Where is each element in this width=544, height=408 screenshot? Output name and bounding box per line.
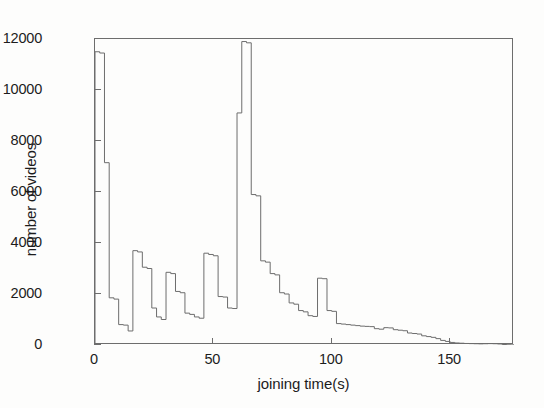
x-axis-ticks: 050100150 (0, 0, 544, 408)
y-tick-mark (94, 344, 101, 345)
x-tick-label: 150 (437, 351, 461, 367)
y-axis-title: number of videos (22, 110, 39, 290)
x-tick-label: 100 (319, 351, 343, 367)
x-tick-label: 0 (90, 351, 98, 367)
y-tick-mark (94, 242, 101, 243)
x-tick-mark (212, 338, 213, 344)
y-tick-mark (94, 38, 101, 39)
x-tick-mark (449, 338, 450, 344)
y-tick-mark (94, 140, 101, 141)
chart-figure: 020004000600080001000012000 050100150 jo… (0, 0, 544, 408)
x-tick-mark (331, 338, 332, 344)
y-tick-mark (94, 191, 101, 192)
x-axis-title: joining time(s) (94, 375, 513, 392)
x-tick-label: 50 (204, 351, 220, 367)
y-tick-mark (94, 293, 101, 294)
y-tick-mark (94, 89, 101, 90)
